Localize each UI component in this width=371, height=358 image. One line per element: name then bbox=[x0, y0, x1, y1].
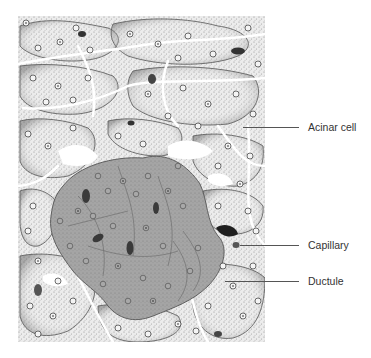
capillary-leader-line bbox=[240, 245, 299, 246]
ductule-leader-line bbox=[225, 281, 299, 282]
capillary-label: Capillary bbox=[308, 239, 349, 251]
histology-illustration bbox=[18, 16, 265, 342]
acinar-cell-leader-line bbox=[243, 127, 299, 128]
tissue-drawing bbox=[18, 16, 265, 342]
acinar-cell-label: Acinar cell bbox=[308, 121, 356, 133]
ductule-label: Ductule bbox=[308, 275, 344, 287]
